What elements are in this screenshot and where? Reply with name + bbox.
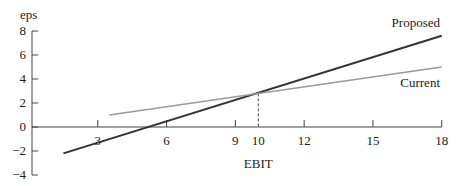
label-proposed: Proposed	[392, 15, 441, 30]
x-axis-label: EBIT	[244, 156, 273, 171]
labels: −4−20246836910121518epsEBITProposedCurre…	[12, 7, 448, 182]
label-current: Current	[400, 75, 440, 90]
y-tick-label: 6	[20, 47, 27, 62]
x-tick-label: 12	[298, 133, 311, 148]
series-current	[109, 67, 441, 115]
x-tick-label: 10	[252, 133, 265, 148]
y-tick-label: 2	[20, 95, 27, 110]
x-tick-label: 9	[232, 133, 239, 148]
x-tick-label: 6	[163, 133, 170, 148]
y-axis-label: eps	[20, 7, 37, 22]
axes	[32, 31, 442, 175]
x-tick-label: 3	[95, 133, 102, 148]
eps-ebit-chart: −4−20246836910121518epsEBITProposedCurre…	[0, 0, 462, 186]
y-tick-label: 0	[20, 119, 27, 134]
x-tick-label: 15	[366, 133, 379, 148]
y-tick-label: −2	[12, 143, 26, 158]
y-tick-label: −4	[12, 167, 26, 182]
y-tick-label: 4	[20, 71, 27, 86]
x-tick-label: 18	[435, 133, 448, 148]
y-tick-label: 8	[20, 23, 27, 38]
